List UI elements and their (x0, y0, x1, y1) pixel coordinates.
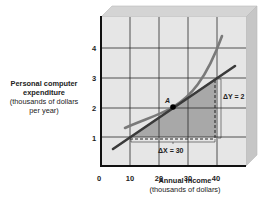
x-axis-title-line2: (thousands of dollars) (130, 185, 240, 194)
delta-y-label: ΔY = 2 (223, 93, 245, 100)
y-axis-title-line2: expenditure (0, 88, 88, 97)
y-tick-2: 2 (92, 104, 96, 113)
y-axis-title-line4: per year) (0, 106, 88, 115)
box-top (101, 6, 257, 17)
x-axis-title-line1: Annual income (130, 176, 240, 185)
delta-x-label: ΔX = 30 (158, 147, 184, 154)
box-side (246, 6, 257, 166)
y-tick-4: 4 (92, 44, 97, 53)
y-axis-title-line1: Personal computer (0, 79, 88, 88)
x-axis-title: Annual income (thousands of dollars) (130, 176, 240, 194)
point-a-marker (170, 104, 176, 110)
y-axis-title-line3: (thousands of dollars (0, 97, 88, 106)
y-axis-title: Personal computer expenditure (thousands… (0, 79, 88, 115)
x-tick-0: 0 (97, 174, 101, 183)
point-a-label: A (164, 97, 170, 104)
y-tick-1: 1 (92, 134, 96, 143)
y-tick-3: 3 (92, 74, 96, 83)
